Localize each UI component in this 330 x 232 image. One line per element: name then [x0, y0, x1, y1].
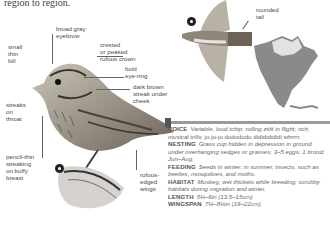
species-info: VOICEVariable, loud tchip; rolling ziiii…: [168, 125, 328, 208]
range-map: [248, 34, 330, 114]
leader-line: [96, 89, 130, 90]
leader-line: [42, 116, 43, 158]
label-throat: streaksonthroat: [6, 101, 26, 122]
info-divider: [165, 121, 330, 124]
intro-text: region to region.: [4, 0, 70, 8]
info-habitat: HABITATMuskeg, wet thickets while breedi…: [168, 178, 328, 193]
male-female-symbol-icon: [55, 164, 64, 173]
info-wingspan: WINGSPAN7¼–8¼in (19–22cm): [168, 200, 328, 208]
leader-line: [52, 34, 53, 64]
label-crown: crestedor peakedrufous crown: [100, 41, 135, 62]
label-eye-ring: boldeye-ring: [125, 65, 147, 79]
label-bill: smallthinbill: [8, 43, 22, 64]
label-tail: roundedtail: [256, 6, 279, 20]
label-breast: pencil-thinstreakingon buffybreast: [6, 153, 34, 181]
info-voice: VOICEVariable, loud tchip; rolling ziiii…: [168, 125, 328, 140]
info-length: LENGTH5¼–6in (13.5–15cm): [168, 193, 328, 201]
label-wings: rufous-edgedwings: [140, 171, 159, 192]
label-cheek: dark brownstreak undercheek: [133, 83, 167, 104]
leader-line: [84, 77, 124, 78]
info-nesting: NESTINGGrass cup hidden in depression in…: [168, 140, 328, 163]
info-feeding: FEEDINGSeeds in winter; in summer, insec…: [168, 163, 328, 178]
male-female-symbol-icon: [187, 17, 196, 26]
leader-line: [136, 150, 137, 170]
label-eyebrow: broad grayeyebrow: [56, 25, 86, 39]
